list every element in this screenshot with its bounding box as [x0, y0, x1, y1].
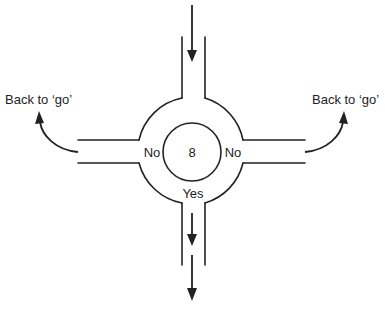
left-back-arrow-icon	[35, 111, 78, 152]
left-channel	[78, 140, 139, 163]
right-channel	[243, 140, 305, 163]
decision-node-label: 8	[188, 145, 195, 160]
branch-right-label: No	[225, 145, 242, 160]
exit-down-arrow-icon	[187, 213, 197, 301]
top-channel	[182, 37, 205, 98]
branch-bottom-label: Yes	[182, 186, 204, 201]
right-exit-label: Back to ‘go’	[312, 92, 379, 107]
branch-left-label: No	[144, 145, 161, 160]
left-exit-label: Back to ‘go’	[5, 92, 72, 107]
entry-down-arrow-icon	[187, 5, 197, 62]
roundabout-diagram: 8 No No Yes Back to ‘go’ Back to ‘go’	[0, 0, 385, 310]
right-back-arrow-icon	[305, 111, 348, 152]
